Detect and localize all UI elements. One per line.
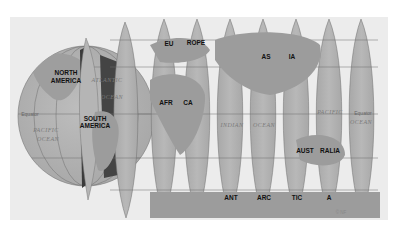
label-south-america-2: AMERICA <box>80 122 111 129</box>
label-asia-2: IA <box>289 53 296 60</box>
label-indian-2: OCEAN <box>253 122 276 128</box>
label-africa-1: AFR <box>159 99 173 106</box>
label-indian-1: INDIAN <box>220 122 244 128</box>
label-antarctica-4: A <box>327 194 332 201</box>
credit-mark: © NF <box>336 209 347 215</box>
label-pacific-west-1: PACIFIC <box>32 127 59 133</box>
label-pacific-west-2: OCEAN <box>37 136 60 142</box>
label-pacific-east-2: OCEAN <box>350 119 373 125</box>
label-equator-west: Equator <box>21 111 39 117</box>
label-europe-2: ROPE <box>187 39 206 46</box>
label-atlantic-1: ATLANTIC <box>90 77 123 83</box>
label-australia-2: RALIA <box>320 147 340 154</box>
label-antarctica-2: ARC <box>257 194 271 201</box>
label-atlantic-2: OCEAN <box>101 94 124 100</box>
label-north-america-1: NORTH <box>54 69 77 76</box>
label-antarctica-3: TIC <box>292 194 303 201</box>
label-europe-1: EU <box>164 40 173 47</box>
label-south-america-1: SOUTH <box>84 115 107 122</box>
label-australia-1: AUST <box>296 147 314 154</box>
label-equator-east: Equator <box>354 110 372 116</box>
label-pacific-east-1: PACIFIC <box>316 109 343 115</box>
label-north-america-2: AMERICA <box>51 77 82 84</box>
label-asia-1: AS <box>261 53 271 60</box>
label-africa-2: CA <box>183 99 193 106</box>
globe-gores-map: NORTH AMERICA SOUTH AMERICA EU ROPE AFR … <box>0 0 399 233</box>
label-antarctica-1: ANT <box>224 194 237 201</box>
